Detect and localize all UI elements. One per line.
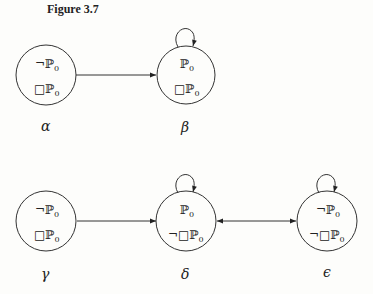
epsilon-line-2: ¬□ℙ <box>309 228 339 242</box>
label-epsilon: ϵ <box>323 264 331 280</box>
delta-line-2: ¬□ℙ <box>168 228 198 242</box>
label-beta: β <box>180 119 189 135</box>
svg-text:ℙ0: ℙ0 <box>180 57 194 73</box>
node-alpha: ¬ℙ0 □ℙ0 <box>16 45 76 105</box>
self-loop-beta <box>176 29 194 47</box>
label-alpha: α <box>41 118 51 134</box>
self-loop-delta <box>176 175 194 193</box>
svg-text:¬ℙ0: ¬ℙ0 <box>35 57 59 73</box>
svg-text:¬□ℙ0: ¬□ℙ0 <box>168 228 204 244</box>
epsilon-line-1: ¬ℙ <box>316 203 335 217</box>
node-gamma: ¬ℙ0 □ℙ0 <box>16 191 76 251</box>
node-beta: ℙ0 □ℙ0 <box>157 46 215 104</box>
gamma-line-1: ¬ℙ <box>35 203 54 217</box>
svg-text:ℙ0: ℙ0 <box>180 203 194 219</box>
delta-line-1: ℙ <box>180 203 189 217</box>
svg-text:□ℙ0: □ℙ0 <box>34 82 59 98</box>
kripke-diagram: ¬ℙ0 □ℙ0 α ℙ0 □ℙ0 β ¬ℙ0 □ℙ0 γ ℙ0 ¬□ℙ0 δ ¬… <box>0 0 373 294</box>
gamma-line-2: □ℙ <box>34 228 54 242</box>
label-gamma: γ <box>41 266 50 282</box>
beta-line-2: □ℙ <box>174 82 194 96</box>
node-epsilon: ¬ℙ0 ¬□ℙ0 <box>297 191 357 251</box>
beta-line-1: ℙ <box>180 57 189 71</box>
node-delta: ℙ0 ¬□ℙ0 <box>156 191 216 251</box>
alpha-line-2: □ℙ <box>34 82 54 96</box>
svg-text:¬ℙ0: ¬ℙ0 <box>316 203 340 219</box>
label-delta: δ <box>181 266 189 282</box>
svg-text:□ℙ0: □ℙ0 <box>174 82 199 98</box>
svg-text:□ℙ0: □ℙ0 <box>34 228 59 244</box>
svg-text:¬ℙ0: ¬ℙ0 <box>35 203 59 219</box>
alpha-line-1: ¬ℙ <box>35 57 54 71</box>
svg-text:¬□ℙ0: ¬□ℙ0 <box>309 228 345 244</box>
self-loop-epsilon <box>317 175 335 193</box>
